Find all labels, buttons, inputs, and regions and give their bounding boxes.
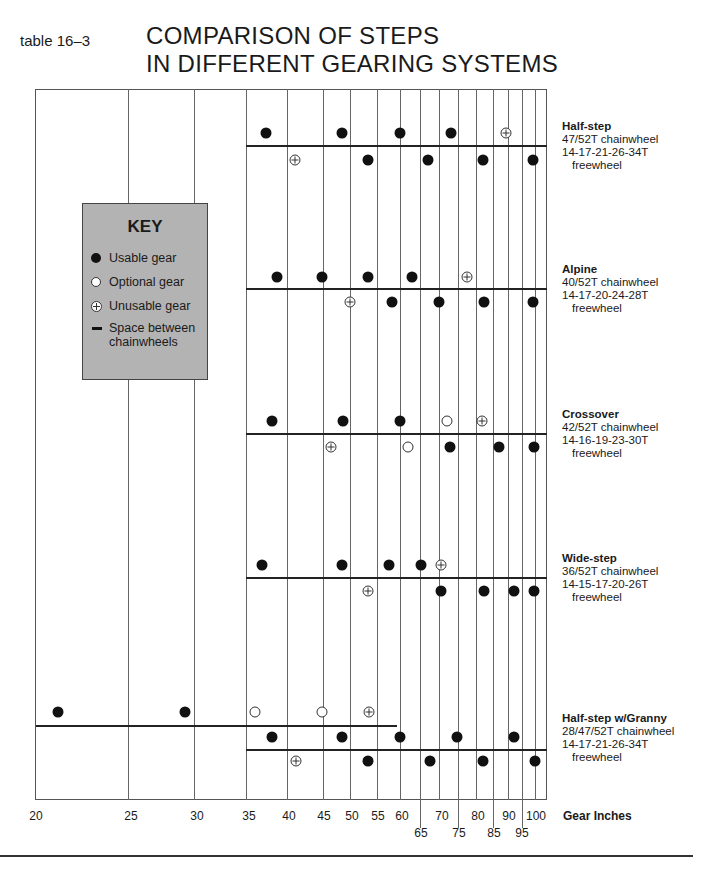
bottom-rule xyxy=(0,855,693,857)
x-tick: 75 xyxy=(452,826,465,840)
x-tick: 90 xyxy=(502,809,515,823)
gridline-60 xyxy=(400,89,401,800)
gear-usable xyxy=(337,560,348,571)
gridline-40 xyxy=(287,89,288,800)
gear-usable xyxy=(446,128,457,139)
usable-gear-icon xyxy=(91,253,101,263)
gear-usable xyxy=(272,272,283,283)
system-label-wide-step: Wide-step 36/52T chainwheel 14-15-17-20-… xyxy=(562,552,658,604)
gear-usable xyxy=(509,586,520,597)
gear-usable xyxy=(337,128,348,139)
legend-title: KEY xyxy=(83,217,207,237)
x-tick: 80 xyxy=(471,809,484,823)
gear-usable xyxy=(395,732,406,743)
gear-usable xyxy=(387,297,398,308)
gear-usable xyxy=(528,155,539,166)
gear-usable xyxy=(395,416,406,427)
system-label-crossover: Crossover 42/52T chainwheel 14-16-19-23-… xyxy=(562,408,658,460)
gear-usable xyxy=(53,707,64,718)
legend-key: KEY Usable gear Optional gear Unusable g… xyxy=(82,203,208,380)
gridline-25 xyxy=(128,89,129,800)
optional-gear-icon xyxy=(91,277,101,287)
gear-unusable xyxy=(345,297,356,308)
gear-usable xyxy=(407,272,418,283)
gridline-80 xyxy=(476,89,477,800)
tick-line-75 xyxy=(458,800,459,828)
gear-usable xyxy=(529,586,540,597)
unusable-gear-icon xyxy=(91,301,102,312)
gear-optional xyxy=(250,707,261,718)
separator-wide-step xyxy=(246,577,547,579)
x-tick: 60 xyxy=(395,809,408,823)
gear-usable xyxy=(445,442,456,453)
table-number: table 16–3 xyxy=(20,32,90,49)
gear-usable xyxy=(363,756,374,767)
x-tick: 30 xyxy=(190,809,203,823)
gear-usable xyxy=(267,416,278,427)
gridline-35 xyxy=(246,89,247,800)
gear-usable xyxy=(529,442,540,453)
gear-unusable xyxy=(462,272,473,283)
gear-optional xyxy=(317,707,328,718)
gear-usable xyxy=(479,297,490,308)
separator-half-step xyxy=(246,145,547,147)
gridline-30 xyxy=(194,89,195,800)
gear-usable xyxy=(478,756,489,767)
gear-usable xyxy=(363,155,374,166)
x-axis-label: Gear Inches xyxy=(563,809,632,823)
x-tick: 45 xyxy=(317,809,330,823)
gear-usable xyxy=(337,732,348,743)
gear-unusable xyxy=(363,586,374,597)
gear-usable xyxy=(363,272,374,283)
x-tick: 70 xyxy=(435,809,448,823)
gear-usable xyxy=(423,155,434,166)
tick-line-65 xyxy=(420,800,421,828)
gear-unusable xyxy=(436,560,447,571)
x-tick: 20 xyxy=(29,809,42,823)
dash-icon xyxy=(92,327,102,330)
x-tick: 65 xyxy=(414,826,427,840)
gridline-45 xyxy=(323,89,324,800)
chart-title-line1: COMPARISON OF STEPS xyxy=(146,22,439,50)
gear-unusable xyxy=(364,707,375,718)
gridline-65 xyxy=(420,89,421,800)
gear-unusable xyxy=(501,128,512,139)
gear-usable xyxy=(180,707,191,718)
gear-usable xyxy=(494,442,505,453)
gear-optional xyxy=(403,442,414,453)
system-label-granny: Half-step w/Granny 28/47/52T chainwheel … xyxy=(562,712,674,764)
x-tick: 85 xyxy=(487,826,500,840)
gear-usable xyxy=(416,560,427,571)
plot-area xyxy=(35,89,547,800)
gear-unusable xyxy=(477,416,488,427)
gear-usable xyxy=(267,732,278,743)
separator-granny-2 xyxy=(246,749,547,751)
system-label-alpine: Alpine 40/52T chainwheel 14-17-20-24-28T… xyxy=(562,263,658,315)
chart-title-line2: IN DIFFERENT GEARING SYSTEMS xyxy=(146,50,558,78)
x-tick: 95 xyxy=(515,826,528,840)
x-tick: 25 xyxy=(124,809,137,823)
gear-usable xyxy=(338,416,349,427)
gear-usable xyxy=(257,560,268,571)
gear-usable xyxy=(261,128,272,139)
x-tick: 40 xyxy=(282,809,295,823)
x-tick: 35 xyxy=(242,809,255,823)
separator-granny-1 xyxy=(36,725,397,727)
gear-optional xyxy=(442,416,453,427)
gridline-55 xyxy=(377,89,378,800)
gear-unusable xyxy=(290,155,301,166)
tick-line-85 xyxy=(493,800,494,828)
tick-line-95 xyxy=(522,800,523,828)
gear-usable xyxy=(479,586,490,597)
system-label-half-step: Half-step 47/52T chainwheel 14-17-21-26-… xyxy=(562,120,658,172)
gear-usable xyxy=(384,560,395,571)
gear-usable xyxy=(425,756,436,767)
gridline-50 xyxy=(350,89,351,800)
separator-alpine xyxy=(246,288,547,290)
gridline-90 xyxy=(508,89,509,800)
gear-usable xyxy=(528,297,539,308)
gridline-70 xyxy=(439,89,440,800)
gear-usable xyxy=(509,732,520,743)
x-tick: 55 xyxy=(371,809,384,823)
gridline-95 xyxy=(522,89,523,800)
